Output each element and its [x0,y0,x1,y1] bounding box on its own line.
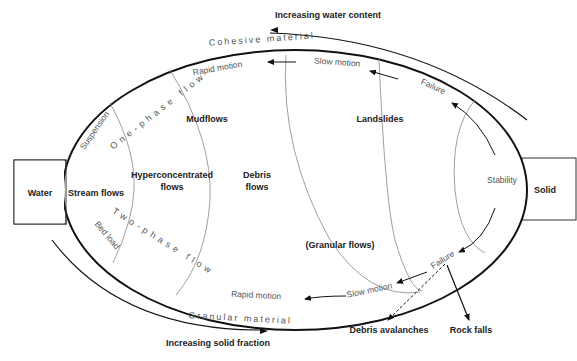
water-label-overlay: Water [28,188,53,198]
granular-flows-label: (Granular flows) [305,240,374,250]
hyperconcentrated-label-1: Hyperconcentrated [131,170,213,180]
stream-flows-label: Stream flows [68,188,124,198]
cohesive-material-label: Cohesive material [209,30,315,47]
bottom-axis-label: Increasing solid fraction [166,338,270,348]
debris-flows-label-2: flows [245,182,268,192]
debris-flows-label-1: Debris [243,170,271,180]
mudflows-label: Mudflows [186,114,228,124]
top-axis-label: Increasing water content [275,10,381,20]
stability-label: Stability [487,175,518,185]
flow-classification-diagram: Water Solid Water Increasing water conte… [0,0,577,361]
landslides-label: Landslides [356,114,403,124]
solid-box: Solid [522,158,576,220]
solid-label: Solid [534,185,556,195]
main-ellipse [63,50,527,330]
rock-falls-label: Rock falls [450,325,493,335]
hyperconcentrated-label-2: flows [160,182,183,192]
debris-avalanches-label: Debris avalanches [349,325,428,335]
